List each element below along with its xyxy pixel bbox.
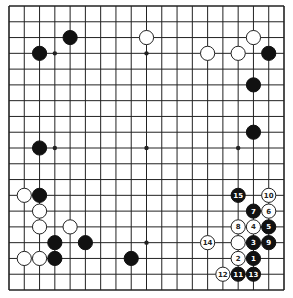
stone-disc (32, 188, 46, 202)
move-number-label: 7 (251, 208, 256, 216)
white-stone-move-6: 6 (262, 204, 276, 218)
stone-disc (32, 204, 46, 218)
go-board-diagram: 123456789101112131415 (0, 0, 293, 298)
white-stone-move-14: 14 (201, 236, 215, 250)
black-stone (32, 188, 46, 202)
black-stone (124, 251, 138, 265)
black-stone (48, 251, 62, 265)
stone-disc (124, 251, 138, 265)
move-number-label: 14 (203, 239, 213, 247)
white-stone-move-12: 12 (216, 267, 230, 281)
white-stone (231, 236, 245, 250)
white-stone-move-4: 4 (246, 220, 260, 234)
black-stone-move-9: 9 (262, 236, 276, 250)
stone-disc (246, 30, 260, 44)
white-stone (246, 30, 260, 44)
black-stone (246, 78, 260, 92)
stone-disc (48, 236, 62, 250)
white-stone (32, 251, 46, 265)
move-number-label: 5 (266, 223, 271, 231)
star-point (53, 51, 57, 55)
black-stone (63, 30, 77, 44)
black-stone-move-13: 13 (246, 267, 260, 281)
move-number-label: 1 (251, 255, 256, 263)
stone-disc (201, 46, 215, 60)
stone-disc (32, 46, 46, 60)
star-point (53, 146, 57, 150)
move-number-label: 4 (251, 223, 256, 231)
white-stone (231, 46, 245, 60)
black-stone (262, 46, 276, 60)
move-number-label: 13 (249, 271, 259, 279)
black-stone-move-7: 7 (246, 204, 260, 218)
move-number-label: 11 (233, 271, 243, 279)
move-number-label: 9 (266, 239, 271, 247)
white-stone (139, 30, 153, 44)
stone-disc (231, 236, 245, 250)
black-stone (32, 141, 46, 155)
white-stone (17, 251, 31, 265)
white-stone-move-10: 10 (262, 188, 276, 202)
black-stone-move-1: 1 (246, 251, 260, 265)
stone-disc (139, 30, 153, 44)
star-point (144, 51, 148, 55)
stone-disc (231, 46, 245, 60)
move-number-label: 8 (236, 223, 241, 231)
white-stone (201, 46, 215, 60)
stone-disc (262, 46, 276, 60)
stone-disc (17, 188, 31, 202)
stone-disc (48, 251, 62, 265)
stone-disc (78, 236, 92, 250)
stone-disc (32, 141, 46, 155)
move-number-label: 12 (218, 271, 228, 279)
stone-disc (32, 220, 46, 234)
black-stone (32, 46, 46, 60)
move-number-label: 2 (236, 255, 241, 263)
move-number-label: 10 (264, 192, 274, 200)
star-point (144, 146, 148, 150)
white-stone (32, 220, 46, 234)
go-board: 123456789101112131415 (0, 0, 293, 298)
white-stone (63, 220, 77, 234)
star-point (144, 240, 148, 244)
move-number-label: 6 (266, 208, 271, 216)
stone-disc (63, 30, 77, 44)
black-stone (48, 236, 62, 250)
white-stone (32, 204, 46, 218)
white-stone (17, 188, 31, 202)
move-number-label: 15 (233, 192, 243, 200)
move-number-label: 3 (251, 239, 256, 247)
stone-disc (32, 251, 46, 265)
stone-disc (17, 251, 31, 265)
black-stone-move-5: 5 (262, 220, 276, 234)
white-stone-move-2: 2 (231, 251, 245, 265)
stone-disc (246, 125, 260, 139)
white-stone-move-8: 8 (231, 220, 245, 234)
black-stone (78, 236, 92, 250)
star-point (236, 146, 240, 150)
black-stone (246, 125, 260, 139)
black-stone-move-11: 11 (231, 267, 245, 281)
stone-disc (246, 78, 260, 92)
black-stone-move-15: 15 (231, 188, 245, 202)
stone-disc (63, 220, 77, 234)
black-stone-move-3: 3 (246, 236, 260, 250)
